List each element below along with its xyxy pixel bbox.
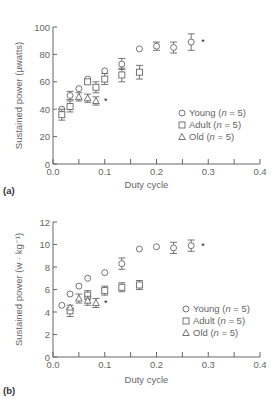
circle-marker [188,39,194,45]
circle-marker [183,306,189,312]
square-marker [85,79,91,85]
y-axis-label: Sustained power (µwatts) [13,42,24,149]
square-marker [93,84,99,90]
triangle-marker [93,300,100,306]
circle-marker [76,283,82,289]
circle-marker [102,270,108,276]
square-marker [183,318,189,324]
circle-marker [136,246,142,252]
circle-marker [59,302,65,308]
circle-marker [67,291,73,297]
square-marker [179,122,185,128]
series-triangle [75,93,99,105]
significance-asterisk: * [104,96,108,106]
y-tick-label: 60 [39,76,50,87]
y-tick-label: 10 [39,239,50,250]
circle-marker [76,86,82,92]
x-tick-label: 0.3 [202,359,215,370]
chart-b: 0246810120.00.10.20.30.4Duty cycleSustai… [3,217,267,397]
y-axis-label: Sustained power (w · kg⁻¹) [13,233,24,346]
y-tick-label: 40 [39,104,50,115]
x-axis-label: Duty cycle [125,179,169,190]
x-tick-label: 0.3 [202,166,215,177]
x-tick-label: 0.2 [150,359,163,370]
circle-marker [136,46,142,52]
square-marker [119,72,125,78]
square-marker [119,284,125,290]
square-marker [136,69,142,75]
circle-marker [85,275,91,281]
significance-asterisk: * [201,241,205,251]
square-marker [136,282,142,288]
circle-marker [102,68,108,74]
legend-entry: Old (n = 5) [193,327,238,338]
y-tick-label: 6 [45,284,50,295]
circle-marker [154,244,160,250]
chart-a: 0204060801000.00.10.20.30.4Duty cycleSus… [3,22,267,197]
x-tick-label: 0.1 [98,359,111,370]
y-tick-label: 8 [45,262,50,273]
x-axis-label: Duty cycle [125,374,169,385]
legend-entry: Young (n = 5) [193,303,250,314]
square-marker [102,76,108,82]
figure: 0204060801000.00.10.20.30.4Duty cycleSus… [0,0,273,404]
y-tick-label: 80 [39,49,50,60]
legend-entry: Young (n = 5) [189,107,246,118]
x-tick-label: 0.0 [46,359,59,370]
triangle-marker [76,295,83,301]
legend: Young (n = 5)Adult (n = 5)Old (n = 5) [179,107,246,142]
circle-marker [179,110,185,116]
circle-marker [119,61,125,67]
triangle-marker [93,97,100,103]
triangle-marker [76,93,83,99]
significance-asterisk: * [104,298,108,308]
legend-entry: Adult (n = 5) [189,119,241,130]
panel-label: (b) [3,385,15,396]
x-tick-label: 0.1 [98,166,111,177]
triangle-marker [183,330,190,336]
legend-entry: Adult (n = 5) [193,315,245,326]
circle-marker [171,45,177,51]
y-tick-label: 12 [39,217,50,228]
panel-label: (a) [3,185,15,196]
circle-marker [188,243,194,249]
legend: Young (n = 5)Adult (n = 5)Old (n = 5) [183,303,250,338]
triangle-marker [179,134,186,140]
x-tick-label: 0.2 [150,166,163,177]
legend-entry: Old (n = 5) [189,131,234,142]
square-marker [102,288,108,294]
y-tick-label: 2 [45,329,50,340]
x-tick-label: 0.4 [253,359,266,370]
square-marker [59,112,65,118]
circle-marker [119,261,125,267]
x-tick-label: 0.0 [46,166,59,177]
square-marker [67,103,73,109]
y-tick-label: 4 [45,307,50,318]
circle-marker [154,43,160,49]
triangle-marker [84,95,91,101]
x-tick-label: 0.4 [253,166,266,177]
y-tick-label: 100 [34,22,50,33]
circle-marker [67,93,73,99]
significance-asterisk: * [201,37,205,47]
y-tick-label: 20 [39,131,50,142]
circle-marker [171,245,177,251]
